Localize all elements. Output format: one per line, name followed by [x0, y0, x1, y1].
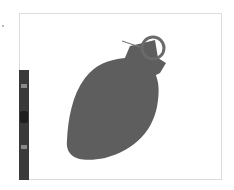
toolbar-button-bottom[interactable] — [21, 145, 27, 149]
toolbar-button-top[interactable] — [21, 84, 27, 88]
figure-graphic — [0, 0, 234, 190]
toolbar-handle[interactable] — [20, 111, 28, 123]
side-toolbar[interactable] — [19, 70, 29, 180]
